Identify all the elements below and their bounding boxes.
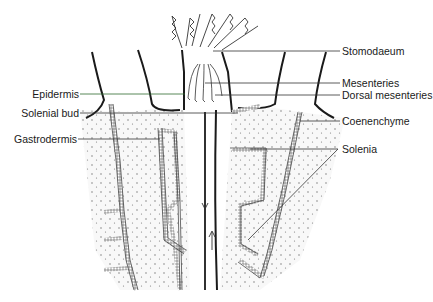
label-coenenchyme: Coenenchyme bbox=[342, 115, 410, 127]
label-solenial-bud: Solenial bud bbox=[21, 107, 79, 119]
polyp-wall-right bbox=[222, 52, 232, 112]
label-gastrodermis: Gastrodermis bbox=[14, 133, 77, 145]
polyp-wall-left bbox=[182, 50, 184, 110]
label-stomodaeum: Stomodaeum bbox=[342, 45, 404, 57]
label-mesenteries: Mesenteries bbox=[342, 77, 399, 89]
central-column-right bbox=[215, 110, 217, 290]
epidermis-right-outer bbox=[315, 52, 334, 118]
label-epidermis: Epidermis bbox=[32, 88, 79, 100]
label-dorsal-mesenteries: Dorsal mesenteries bbox=[342, 89, 432, 101]
tentacles bbox=[172, 14, 258, 50]
flow-arrow-up bbox=[209, 231, 215, 250]
epidermis-right-inner bbox=[238, 52, 285, 109]
epidermis-left-outer bbox=[86, 52, 104, 118]
flow-arrow-down bbox=[202, 190, 208, 209]
label-solenia: Solenia bbox=[342, 143, 377, 155]
epidermis-left-inner bbox=[138, 50, 180, 110]
